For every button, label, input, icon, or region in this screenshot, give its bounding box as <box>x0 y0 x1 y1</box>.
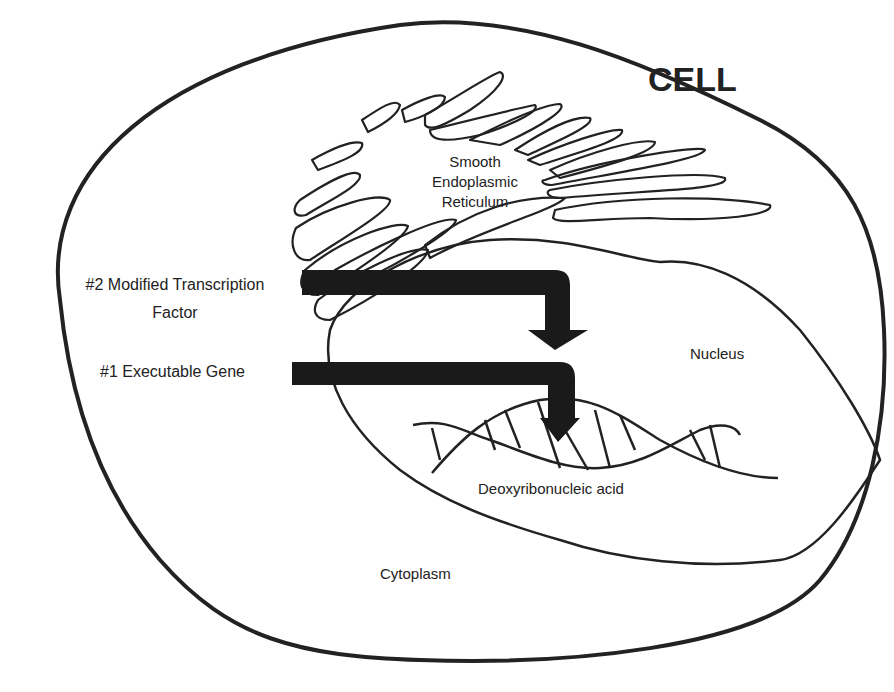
transcription-factor-arrow <box>302 270 588 350</box>
transcription-factor-label: #2 Modified Transcription Factor <box>50 271 300 327</box>
transcription-factor-label-line: Factor <box>50 299 300 327</box>
nucleus-label: Nucleus <box>690 345 744 362</box>
smooth-er-label-line: Smooth <box>400 152 550 172</box>
smooth-er-label: Smooth Endoplasmic Reticulum <box>400 152 550 212</box>
dna-label: Deoxyribonucleic acid <box>478 480 624 497</box>
executable-gene-label: #1 Executable Gene <box>100 363 245 381</box>
cell-membrane <box>58 22 885 661</box>
executable-gene-arrow <box>292 362 580 442</box>
smooth-er-label-line: Endoplasmic <box>400 172 550 192</box>
cell-diagram <box>0 0 894 692</box>
cytoplasm-label: Cytoplasm <box>380 565 451 582</box>
smooth-er-label-line: Reticulum <box>400 192 550 212</box>
dna-helix <box>413 398 778 478</box>
transcription-factor-label-line: #2 Modified Transcription <box>50 271 300 299</box>
diagram-title: CELL <box>648 60 737 99</box>
